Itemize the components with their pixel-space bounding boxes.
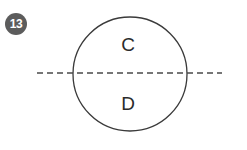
figure-canvas: 13 C D [0, 0, 247, 150]
geometry-diagram [0, 0, 247, 150]
region-label-d: D [116, 93, 140, 115]
region-label-c: C [116, 34, 140, 56]
question-number-badge: 13 [5, 13, 27, 35]
